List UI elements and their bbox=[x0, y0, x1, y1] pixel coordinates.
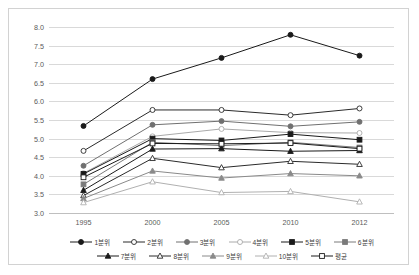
y-axis-tick-label: 4.5 bbox=[34, 153, 44, 162]
legend-marker-icon bbox=[228, 237, 252, 247]
legend-item-2분위[interactable]: 2분위 bbox=[122, 237, 163, 247]
legend-item-1분위[interactable]: 1분위 bbox=[69, 237, 110, 247]
y-axis-tick-label: 5.5 bbox=[34, 116, 44, 125]
legend-item-4분위[interactable]: 4분위 bbox=[228, 237, 269, 247]
legend-item-label: 10분위 bbox=[279, 251, 298, 261]
legend-marker-icon bbox=[122, 237, 146, 247]
legend-marker-icon bbox=[69, 237, 93, 247]
legend-marker-icon bbox=[96, 251, 120, 261]
legend-marker-icon bbox=[201, 251, 225, 261]
legend-item-label: 8분위 bbox=[173, 251, 189, 261]
series-line bbox=[81, 32, 362, 128]
legend-marker-icon bbox=[280, 237, 304, 247]
y-axis-tick-label: 7.0 bbox=[34, 60, 44, 69]
legend-row-2: 7분위8분위9분위10분위평균 bbox=[49, 249, 394, 263]
legend-item-label: 2분위 bbox=[147, 237, 163, 247]
legend-item-평균[interactable]: 평균 bbox=[310, 251, 347, 261]
legend-item-7분위[interactable]: 7분위 bbox=[96, 251, 137, 261]
legend-marker-icon bbox=[148, 251, 172, 261]
legend-item-6분위[interactable]: 6분위 bbox=[333, 237, 374, 247]
legend-item-label: 9분위 bbox=[226, 251, 242, 261]
x-axis-tick-label: 2000 bbox=[145, 218, 161, 227]
legend-row-1: 1분위2분위3분위4분위5분위6분위 bbox=[49, 235, 394, 249]
legend-item-8분위[interactable]: 8분위 bbox=[148, 251, 189, 261]
x-axis-tick-label: 2012 bbox=[352, 218, 368, 227]
legend-item-5분위[interactable]: 5분위 bbox=[280, 237, 321, 247]
legend-item-label: 평균 bbox=[335, 251, 347, 261]
y-axis-tick-label: 4.0 bbox=[34, 171, 44, 180]
y-axis-tick-label: 8.0 bbox=[34, 23, 44, 32]
legend-item-label: 6분위 bbox=[358, 237, 374, 247]
chart-frame: 3.03.54.04.55.05.56.06.57.07.58.0 199520… bbox=[8, 8, 409, 265]
y-axis-tick-label: 6.0 bbox=[34, 97, 44, 106]
plot-area: 3.03.54.04.55.05.56.06.57.07.58.0 bbox=[49, 27, 394, 213]
y-axis-tick-label: 5.0 bbox=[34, 134, 44, 143]
y-axis-tick-label: 3.5 bbox=[34, 190, 44, 199]
series-layer bbox=[49, 27, 394, 213]
legend-item-10분위[interactable]: 10분위 bbox=[254, 251, 298, 261]
legend-item-label: 3분위 bbox=[200, 237, 216, 247]
x-axis-tick-label: 2010 bbox=[283, 218, 299, 227]
legend-marker-icon bbox=[175, 237, 199, 247]
y-axis-tick-label: 3.0 bbox=[34, 209, 44, 218]
legend-item-label: 1분위 bbox=[94, 237, 110, 247]
legend-marker-icon bbox=[310, 251, 334, 261]
legend-item-label: 4분위 bbox=[253, 237, 269, 247]
x-axis-line bbox=[49, 213, 394, 214]
legend-item-9분위[interactable]: 9분위 bbox=[201, 251, 242, 261]
y-axis-tick-label: 6.5 bbox=[34, 78, 44, 87]
y-axis-tick-label: 7.5 bbox=[34, 41, 44, 50]
x-axis-tick-label: 2005 bbox=[214, 218, 230, 227]
legend-marker-icon bbox=[254, 251, 278, 261]
legend-item-3분위[interactable]: 3분위 bbox=[175, 237, 216, 247]
legend-item-label: 7분위 bbox=[121, 251, 137, 261]
x-axis-tick-label: 1995 bbox=[76, 218, 92, 227]
legend-marker-icon bbox=[333, 237, 357, 247]
chart-legend: 1분위2분위3분위4분위5분위6분위 7분위8분위9분위10분위평균 bbox=[49, 235, 394, 263]
legend-item-label: 5분위 bbox=[305, 237, 321, 247]
